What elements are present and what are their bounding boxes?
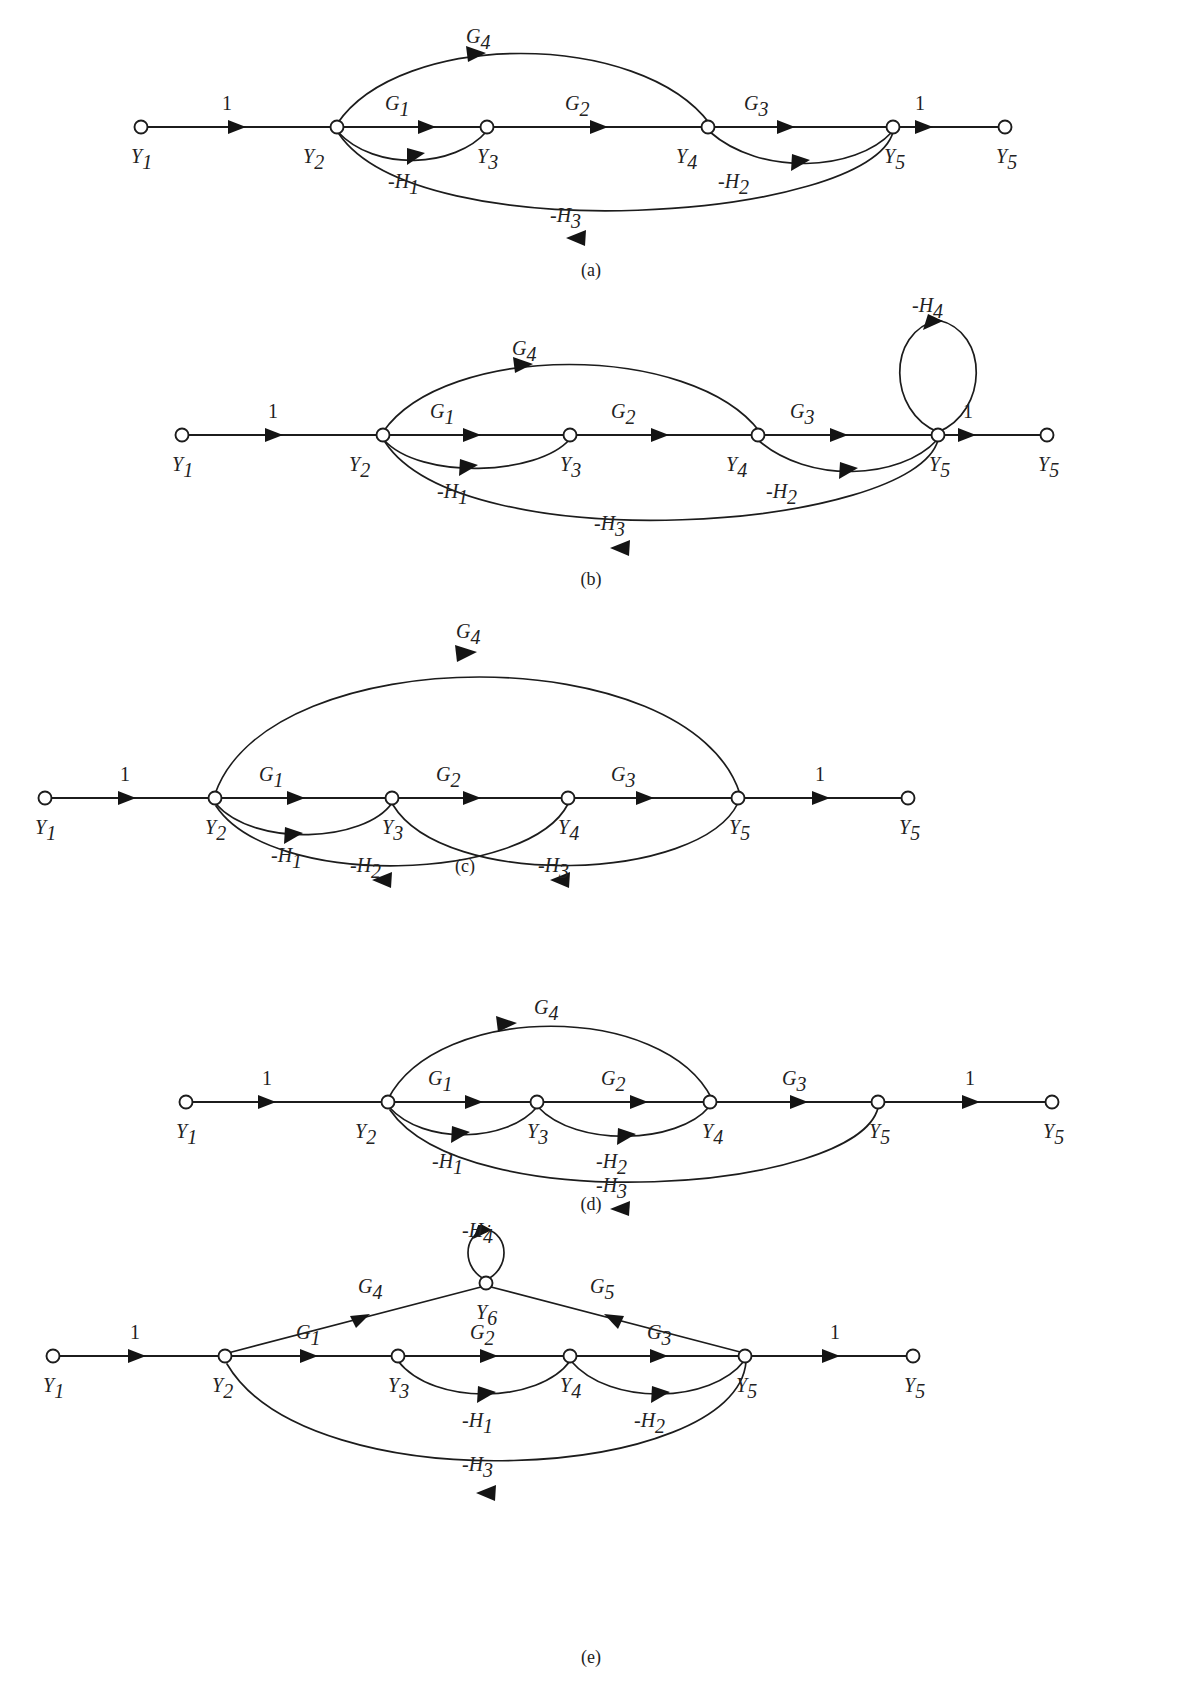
panel-c-edges bbox=[45, 645, 908, 888]
node-label-Y2: Y2 bbox=[205, 816, 226, 844]
edge-G4-Y2-Y5 bbox=[215, 677, 740, 794]
node-label-Y5: Y5 bbox=[884, 145, 905, 173]
node-label-Y1: Y1 bbox=[131, 145, 152, 173]
node-label-Y5-output: Y5 bbox=[1043, 1120, 1064, 1148]
node-Y5-output[interactable] bbox=[1046, 1096, 1059, 1109]
edge-label-negH1: -H1 bbox=[462, 1409, 493, 1437]
node-label-Y2: Y2 bbox=[303, 145, 324, 173]
node-label-Y3: Y3 bbox=[560, 453, 581, 481]
node-Y3[interactable] bbox=[481, 121, 494, 134]
node-Y2[interactable] bbox=[382, 1096, 395, 1109]
edge-label-G3: G3 bbox=[611, 763, 635, 791]
node-Y4[interactable] bbox=[752, 429, 765, 442]
node-label-Y1: Y1 bbox=[35, 816, 56, 844]
node-label-Y5: Y5 bbox=[729, 816, 750, 844]
node-Y3[interactable] bbox=[386, 792, 399, 805]
arrowhead-negH3-Y5-Y2 bbox=[566, 230, 586, 246]
edge-label-G5: G5 bbox=[590, 1275, 614, 1303]
node-Y3[interactable] bbox=[392, 1350, 405, 1363]
panel-caption-e: (e) bbox=[581, 1647, 601, 1668]
node-label-Y3: Y3 bbox=[477, 145, 498, 173]
node-Y5[interactable] bbox=[872, 1096, 885, 1109]
node-Y1[interactable] bbox=[135, 121, 148, 134]
edge-label-negH2: -H2 bbox=[766, 480, 797, 508]
node-Y5[interactable] bbox=[932, 429, 945, 442]
node-label-Y5-output: Y5 bbox=[996, 145, 1017, 173]
node-label-Y5-output: Y5 bbox=[899, 816, 920, 844]
node-label-Y4: Y4 bbox=[558, 816, 579, 844]
arrowhead-negH1-Y3-Y2 bbox=[407, 148, 425, 165]
node-Y1[interactable] bbox=[39, 792, 52, 805]
node-Y5-output[interactable] bbox=[907, 1350, 920, 1363]
arrowhead-G1-Y2-Y3 bbox=[418, 120, 436, 134]
node-Y5-output[interactable] bbox=[999, 121, 1012, 134]
node-Y2[interactable] bbox=[219, 1350, 232, 1363]
edge-label-negH3: -H3 bbox=[594, 512, 625, 540]
node-label-Y2: Y2 bbox=[355, 1120, 376, 1148]
arrowhead-1-Y5-Y5out bbox=[962, 1095, 980, 1109]
edge-label-1-input: 1 bbox=[130, 1321, 140, 1343]
edge-label-G4: G4 bbox=[534, 996, 558, 1024]
edge-label-G4: G4 bbox=[456, 620, 480, 648]
edge-negH1-Y3-Y2 bbox=[216, 803, 392, 835]
edge-label-negH2: -H2 bbox=[350, 854, 381, 882]
edge-label-G2: G2 bbox=[611, 400, 635, 428]
edge-label-1-output: 1 bbox=[815, 763, 825, 785]
node-Y2[interactable] bbox=[377, 429, 390, 442]
edge-label-G1: G1 bbox=[385, 92, 409, 120]
arrowhead-negH2-Y5-Y4 bbox=[791, 154, 810, 171]
node-Y4[interactable] bbox=[562, 792, 575, 805]
arrowhead-G2-Y3-Y4 bbox=[590, 120, 608, 134]
node-label-Y5-output: Y5 bbox=[1038, 453, 1059, 481]
node-label-Y4: Y4 bbox=[560, 1374, 581, 1402]
panel-a: Y1 Y2 Y3 Y4 Y5 Y5 1 G1 G2 G3 1 G4 -H1 -H… bbox=[0, 0, 1183, 290]
panel-caption-b: (b) bbox=[581, 569, 602, 590]
node-Y2[interactable] bbox=[331, 121, 344, 134]
panel-d: Y1 Y2 Y3 Y4 Y5 Y5 1 G1 G2 G3 1 G4 -H1 -H… bbox=[0, 920, 1183, 1220]
edge-label-G2: G2 bbox=[601, 1067, 625, 1095]
node-Y5[interactable] bbox=[732, 792, 745, 805]
edge-label-negH3: -H3 bbox=[462, 1453, 493, 1481]
node-Y1[interactable] bbox=[180, 1096, 193, 1109]
node-Y4[interactable] bbox=[704, 1096, 717, 1109]
node-Y1[interactable] bbox=[47, 1350, 60, 1363]
node-Y3[interactable] bbox=[564, 429, 577, 442]
arrowhead-1-Y5-Y5out bbox=[915, 120, 933, 134]
edge-label-G3: G3 bbox=[744, 92, 768, 120]
edge-label-negH1: -H1 bbox=[271, 844, 302, 872]
arrowhead-G1-Y2-Y3 bbox=[465, 1095, 483, 1109]
node-Y4[interactable] bbox=[564, 1350, 577, 1363]
node-Y5-output[interactable] bbox=[1041, 429, 1054, 442]
node-Y5[interactable] bbox=[739, 1350, 752, 1363]
arrowhead-G3-Y4-Y5 bbox=[790, 1095, 808, 1109]
node-Y2[interactable] bbox=[209, 792, 222, 805]
panel-d-edge-labels: 1 G1 G2 G3 1 G4 -H1 -H2 -H3 bbox=[262, 996, 975, 1202]
arrowhead-1-Y1-Y2 bbox=[258, 1095, 276, 1109]
node-label-Y1: Y1 bbox=[176, 1120, 197, 1148]
node-label-Y5: Y5 bbox=[736, 1374, 757, 1402]
edge-label-G4: G4 bbox=[358, 1275, 382, 1303]
panel-e-h4-label-layer: -H4 bbox=[0, 1205, 1183, 1245]
node-Y1[interactable] bbox=[176, 429, 189, 442]
node-Y4[interactable] bbox=[702, 121, 715, 134]
edge-label-1-output: 1 bbox=[963, 400, 973, 422]
edge-label-1-input: 1 bbox=[262, 1067, 272, 1089]
signal-flow-graph-figure: Y1 Y2 Y3 Y4 Y5 Y5 1 G1 G2 G3 1 G4 -H1 -H… bbox=[0, 0, 1183, 1682]
arrowhead-negH2-Y5-Y4 bbox=[839, 462, 858, 479]
node-Y6[interactable] bbox=[480, 1277, 493, 1290]
edge-label-1-output: 1 bbox=[915, 92, 925, 114]
node-label-Y5: Y5 bbox=[929, 453, 950, 481]
edge-negH3-Y5-Y2 bbox=[227, 1362, 746, 1461]
node-label-Y5-output: Y5 bbox=[904, 1374, 925, 1402]
edge-negH1-Y3-Y2 bbox=[384, 439, 570, 468]
edge-label-negH3: -H3 bbox=[550, 204, 581, 232]
node-Y3[interactable] bbox=[531, 1096, 544, 1109]
edge-label-G3: G3 bbox=[647, 1321, 671, 1349]
node-Y5-output[interactable] bbox=[902, 792, 915, 805]
arrowhead-1-Y1-Y2 bbox=[118, 791, 136, 805]
node-Y5[interactable] bbox=[887, 121, 900, 134]
panel-b-edge-labels: 1 G1 G2 G3 1 G4 -H1 -H2 -H3 -H4 bbox=[268, 294, 973, 540]
arrowhead-G1-Y2-Y3 bbox=[300, 1349, 318, 1363]
edge-negH3-Y5-Y2 bbox=[339, 132, 893, 211]
panel-e: Y1 Y2 Y3 Y4 Y5 Y5 Y6 1 G1 G2 G3 1 G4 G5 … bbox=[0, 1225, 1183, 1682]
